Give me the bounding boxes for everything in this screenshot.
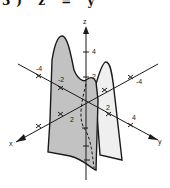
tick-mark — [128, 123, 133, 127]
x-axis-arrowhead — [16, 134, 26, 142]
right-tick-neg4-label: -4 — [136, 78, 142, 85]
surface-back-sheet — [96, 62, 122, 160]
z-axis-label: z — [83, 18, 87, 25]
x-axis-label: x — [9, 140, 13, 147]
surface-plot: z 4 2 y -4 -2 2 4 x -4 2 — [0, 0, 170, 188]
tick-mark — [128, 75, 133, 79]
left-tick-neg2-label: -2 — [58, 76, 64, 83]
z-tick-2-label: 2 — [92, 73, 96, 80]
y-axis-label: y — [158, 138, 162, 146]
x-tick-2-label: 2 — [70, 116, 74, 123]
front-tick-4-label: 4 — [132, 114, 136, 121]
z-axis-arrowhead — [83, 26, 89, 34]
z-tick-4-label: 4 — [92, 48, 96, 55]
tick-mark — [36, 124, 41, 128]
left-tick-neg4-label: -4 — [36, 65, 42, 72]
front-tick-2-label: 2 — [106, 104, 110, 111]
